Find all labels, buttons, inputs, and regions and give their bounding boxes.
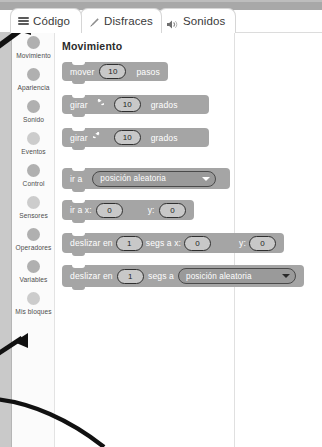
tab-disfraces-label: Disfraces — [104, 15, 153, 27]
sidebar-item-label: Apariencia — [17, 84, 49, 91]
sidebar-item-label: Operadores — [16, 244, 52, 251]
block-ir-a-posicion[interactable]: ir a posición aleatoria — [62, 168, 230, 189]
palette-category-heading: Movimiento — [62, 40, 122, 52]
sidebar-item-label: Variables — [20, 276, 48, 283]
block-text: pasos — [136, 67, 159, 77]
category-dot-icon — [27, 100, 40, 113]
block-text: girar — [70, 100, 88, 110]
sidebar-item-label: Eventos — [21, 148, 46, 155]
sidebar-item-mis-bloques[interactable]: Mis bloques — [12, 289, 55, 321]
block-text: ir a — [70, 174, 82, 184]
category-dot-icon — [27, 260, 40, 273]
block-text: y: — [239, 238, 246, 248]
sidebar-item-eventos[interactable]: Eventos — [12, 129, 55, 161]
num-input-segs[interactable]: 1 — [116, 236, 143, 251]
block-mover-pasos[interactable]: mover 10 pasos — [62, 62, 168, 81]
rotate-left-icon — [93, 132, 104, 143]
category-sidebar[interactable]: Movimiento Apariencia Sonido Eventos Con… — [12, 33, 55, 447]
num-input-x[interactable]: 0 — [184, 236, 211, 251]
sidebar-item-variables[interactable]: Variables — [12, 257, 55, 289]
dropdown-posicion[interactable]: posición aleatoria — [178, 268, 296, 284]
tab-sonidos-label: Sonidos — [183, 15, 225, 27]
block-girar-derecha[interactable]: girar 10 grados — [62, 95, 209, 114]
dropdown-value: posición aleatoria — [100, 174, 166, 183]
sidebar-item-operadores[interactable]: Operadores — [12, 225, 55, 257]
sidebar-item-movimiento[interactable]: Movimiento — [12, 33, 55, 65]
sidebar-item-label: Sensores — [19, 212, 48, 219]
speaker-icon — [166, 16, 179, 27]
chevron-down-icon — [282, 274, 290, 278]
tab-codigo[interactable]: Código — [10, 8, 82, 33]
chevron-down-icon — [202, 177, 210, 181]
lines-icon — [18, 17, 29, 25]
block-ir-a-xy[interactable]: ir a x: 0 y: 0 — [62, 200, 194, 220]
tab-codigo-label: Código — [33, 15, 70, 27]
block-text: segs a — [148, 271, 174, 281]
dropdown-value: posición aleatoria — [186, 272, 252, 281]
category-dot-icon — [27, 228, 40, 241]
block-text: y: — [148, 205, 155, 215]
tab-sonidos[interactable]: Sonidos — [158, 8, 236, 33]
num-input-grados[interactable]: 10 — [114, 130, 141, 145]
num-input-grados[interactable]: 10 — [114, 97, 141, 112]
block-deslizar-posicion[interactable]: deslizar en 1 segs a posición aleatoria — [62, 265, 304, 287]
num-input-pasos[interactable]: 10 — [99, 64, 126, 79]
block-text: segs a x: — [146, 238, 181, 248]
sidebar-item-sonido[interactable]: Sonido — [12, 97, 55, 129]
dropdown-posicion[interactable]: posición aleatoria — [92, 171, 216, 187]
sidebar-item-label: Mis bloques — [15, 308, 51, 315]
block-girar-izquierda[interactable]: girar 10 grados — [62, 128, 209, 147]
sidebar-item-control[interactable]: Control — [12, 161, 55, 193]
block-text: grados — [151, 133, 178, 143]
block-text: deslizar en — [70, 271, 113, 281]
category-dot-icon — [27, 68, 40, 81]
category-dot-icon — [27, 292, 40, 305]
category-dot-icon — [27, 36, 40, 49]
tab-disfraces[interactable]: Disfraces — [80, 8, 162, 33]
block-text: mover — [70, 67, 94, 77]
category-dot-icon — [27, 164, 40, 177]
category-dot-icon — [27, 132, 40, 145]
num-input-y[interactable]: 0 — [249, 236, 276, 251]
num-input-segs[interactable]: 1 — [117, 269, 144, 284]
block-text: girar — [70, 133, 88, 143]
brush-icon — [88, 15, 100, 27]
category-dot-icon — [27, 196, 40, 209]
num-input-y[interactable]: 0 — [159, 203, 186, 218]
num-input-x[interactable]: 0 — [96, 203, 123, 218]
editor-tab-strip: Código Disfraces Sonidos — [0, 8, 322, 33]
sidebar-item-apariencia[interactable]: Apariencia — [12, 65, 55, 97]
block-text: ir a x: — [70, 205, 92, 215]
sidebar-item-label: Sonido — [23, 116, 44, 123]
sidebar-item-label: Control — [23, 180, 45, 187]
block-deslizar-xy[interactable]: deslizar en 1 segs a x: 0 y: 0 — [62, 233, 284, 253]
block-text: grados — [151, 100, 178, 110]
sidebar-item-label: Movimiento — [16, 52, 51, 59]
sidebar-item-sensores[interactable]: Sensores — [12, 193, 55, 225]
block-text: deslizar en — [70, 238, 113, 248]
title-bar-highlight — [0, 0, 322, 2]
rotate-right-icon — [93, 99, 104, 110]
